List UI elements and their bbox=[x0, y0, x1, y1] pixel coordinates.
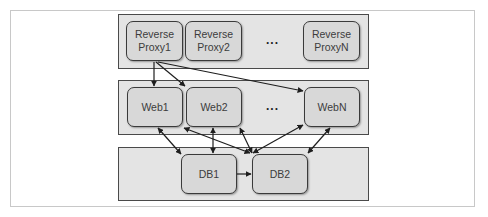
arrow-rp1-webN bbox=[158, 62, 303, 91]
arrow-web2-db2 bbox=[240, 128, 252, 153]
arrow-rp1-web2 bbox=[156, 62, 185, 86]
arrow-web1-db1 bbox=[158, 128, 181, 154]
connection-arrows bbox=[0, 0, 488, 217]
arrow-webN-db2-b bbox=[308, 128, 330, 153]
arrow-webN-db2-a bbox=[253, 125, 303, 153]
arrow-web1-db2 bbox=[184, 128, 250, 153]
